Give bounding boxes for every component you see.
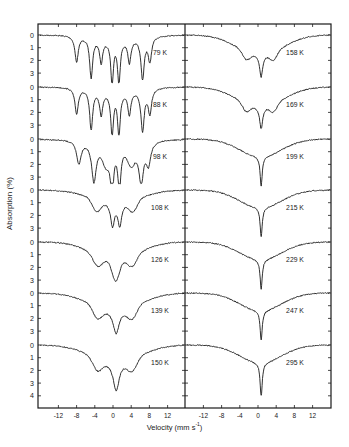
y-axis-label: Absorption (%): [5, 177, 14, 230]
x-axis-label: Velocity (mm s-1): [0, 421, 349, 432]
x-tick-label: -12: [199, 412, 209, 419]
x-tick-label: -4: [92, 412, 98, 419]
y-tick-label: 1: [30, 302, 34, 309]
plot-frame: [38, 24, 331, 408]
y-tick-label: 3: [30, 277, 34, 284]
y-tick-label: 0: [30, 84, 34, 91]
y-tick-label: 2: [30, 109, 34, 116]
y-tick-label: 1: [30, 44, 34, 51]
temperature-label: 229 K: [286, 256, 304, 263]
mossbauer-figure: -12-8-404812-12-8-4048120123012301230123…: [0, 0, 349, 447]
y-tick-label: 0: [30, 239, 34, 246]
x-tick-label: 0: [111, 412, 115, 419]
x-tick-label: -12: [54, 412, 64, 419]
temperature-label: 199 K: [286, 153, 304, 160]
y-tick-label: 0: [30, 187, 34, 194]
temperature-label: 295 K: [286, 359, 304, 366]
y-tick-label: 1: [30, 148, 34, 155]
x-tick-label: -4: [237, 412, 243, 419]
y-tick-label: 4: [30, 392, 34, 399]
x-tick-label: -8: [219, 412, 225, 419]
x-tick-label: 8: [293, 412, 297, 419]
y-tick-label: 0: [30, 342, 34, 349]
temperature-label: 150 K: [151, 359, 169, 366]
y-tick-label: 2: [30, 367, 34, 374]
spectrum-98k: [40, 139, 184, 184]
spectrum-169k: [187, 87, 330, 129]
x-tick-label: 8: [148, 412, 152, 419]
temperature-label: 88 K: [153, 101, 167, 108]
x-tick-label: 4: [129, 412, 133, 419]
spectrum-247k: [187, 293, 330, 340]
x-axis-label-main: Velocity (mm s: [147, 423, 196, 432]
x-tick-label: 12: [164, 412, 172, 419]
y-tick-label: 3: [30, 380, 34, 387]
y-tick-label: 3: [30, 225, 34, 232]
temperature-label: 139 K: [151, 307, 169, 314]
y-tick-label: 2: [30, 315, 34, 322]
spectrum-215k: [187, 190, 330, 237]
x-tick-label: 4: [274, 412, 278, 419]
spectrum-295k: [187, 345, 330, 396]
x-tick-label: 0: [256, 412, 260, 419]
y-tick-label: 3: [30, 174, 34, 181]
y-tick-label: 2: [30, 161, 34, 168]
temperature-label: 215 K: [286, 204, 304, 211]
temperature-label: 247 K: [286, 307, 304, 314]
y-tick-label: 3: [30, 70, 34, 77]
spectrum-150k: [40, 345, 184, 391]
x-tick-label: 12: [309, 412, 317, 419]
spectrum-88k: [40, 87, 184, 136]
y-tick-label: 0: [30, 32, 34, 39]
y-tick-label: 0: [30, 290, 34, 297]
temperature-label: 79 K: [153, 49, 167, 56]
temperature-labels: 79 K88 K98 K108 K126 K139 K150 K158 K169…: [151, 49, 304, 366]
spectrum-158k: [187, 35, 330, 78]
y-tick-label: 3: [30, 328, 34, 335]
spectrum-199k: [187, 139, 330, 187]
temperature-label: 158 K: [286, 49, 304, 56]
y-tick-label: 1: [30, 96, 34, 103]
temperature-label: 108 K: [151, 204, 169, 211]
y-tick-label: 3: [30, 122, 34, 129]
temperature-label: 169 K: [286, 101, 304, 108]
y-tick-label: 0: [30, 136, 34, 143]
y-tick-label: 1: [30, 354, 34, 361]
temperature-label: 126 K: [151, 256, 169, 263]
y-tick-label: 2: [30, 212, 34, 219]
temperature-label: 98 K: [153, 153, 167, 160]
x-tick-label: -8: [74, 412, 80, 419]
y-tick-label: 1: [30, 251, 34, 258]
y-tick-label: 1: [30, 199, 34, 206]
y-tick-label: 2: [30, 57, 34, 64]
x-axis-label-end: ): [200, 423, 203, 432]
y-tick-label: 2: [30, 264, 34, 271]
spectrum-229k: [187, 242, 330, 290]
spectrum-79k: [40, 35, 184, 83]
